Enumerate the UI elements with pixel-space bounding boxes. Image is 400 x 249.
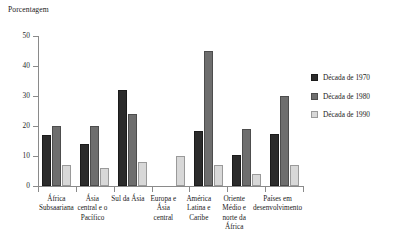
y-axis-title: Porcentagem bbox=[8, 5, 49, 14]
x-axis-label: Oriente Médio e norte da África bbox=[216, 195, 251, 233]
x-axis-line bbox=[38, 186, 303, 187]
y-axis-tick-label: 20 bbox=[23, 121, 30, 130]
x-axis-label: Países em desenvolvimento bbox=[252, 195, 303, 233]
x-axis-label: Sul da Ásia bbox=[110, 195, 145, 233]
bar-group bbox=[265, 36, 303, 186]
x-axis-label: América Latina e Caribe bbox=[181, 195, 216, 233]
bar bbox=[194, 131, 203, 187]
legend-label: Década de 1970 bbox=[323, 73, 370, 82]
bar-group bbox=[114, 36, 152, 186]
x-axis-label: Europa e Ásia central bbox=[146, 195, 181, 233]
legend-swatch-icon bbox=[311, 93, 318, 100]
bar bbox=[138, 162, 147, 186]
x-axis-separator bbox=[114, 186, 115, 192]
bar bbox=[252, 174, 261, 186]
x-axis-separator bbox=[152, 186, 153, 192]
x-axis-separator bbox=[38, 186, 39, 192]
bar bbox=[90, 126, 99, 186]
bar bbox=[280, 96, 289, 186]
bar bbox=[100, 168, 109, 186]
legend-swatch-icon bbox=[311, 74, 318, 81]
y-axis-tick-label: 10 bbox=[23, 151, 30, 160]
x-axis-label: Ásia central e o Pacífico bbox=[75, 195, 110, 233]
bar bbox=[204, 51, 213, 186]
y-axis-tick-label: 0 bbox=[26, 181, 30, 190]
bar-group bbox=[227, 36, 265, 186]
bar bbox=[242, 129, 251, 186]
legend-item[interactable]: Década de 1980 bbox=[311, 92, 370, 101]
bar bbox=[62, 165, 71, 186]
bar-groups bbox=[38, 36, 303, 186]
bar bbox=[214, 165, 223, 186]
bar bbox=[290, 165, 299, 186]
bar bbox=[52, 126, 61, 186]
bar bbox=[128, 114, 137, 186]
plot-area: 01020304050 bbox=[38, 36, 303, 186]
legend-item[interactable]: Década de 1970 bbox=[311, 73, 370, 82]
chart-legend: Década de 1970Década de 1980Década de 19… bbox=[311, 73, 370, 129]
x-axis-separator bbox=[303, 186, 304, 192]
x-axis-label: África Subsaariana bbox=[38, 195, 75, 233]
x-axis-labels: África SubsaarianaÁsia central e o Pacíf… bbox=[38, 195, 303, 233]
y-axis-tick-label: 50 bbox=[23, 31, 30, 40]
bar-group bbox=[38, 36, 76, 186]
legend-item[interactable]: Década de 1990 bbox=[311, 110, 370, 119]
bar bbox=[176, 156, 185, 186]
y-axis-tick-label: 40 bbox=[23, 61, 30, 70]
x-axis-separator bbox=[189, 186, 190, 192]
bar-group bbox=[189, 36, 227, 186]
bar bbox=[80, 144, 89, 186]
bar-group bbox=[76, 36, 114, 186]
bar bbox=[118, 90, 127, 186]
legend-swatch-icon bbox=[311, 111, 318, 118]
legend-label: Década de 1980 bbox=[323, 92, 370, 101]
x-axis-separator bbox=[227, 186, 228, 192]
bar bbox=[270, 134, 279, 187]
bar-group bbox=[152, 36, 190, 186]
x-axis-separator bbox=[265, 186, 266, 192]
y-axis-tick-label: 30 bbox=[23, 91, 30, 100]
x-axis-separator bbox=[76, 186, 77, 192]
bar bbox=[232, 155, 241, 187]
bar bbox=[42, 135, 51, 186]
legend-label: Década de 1990 bbox=[323, 110, 370, 119]
